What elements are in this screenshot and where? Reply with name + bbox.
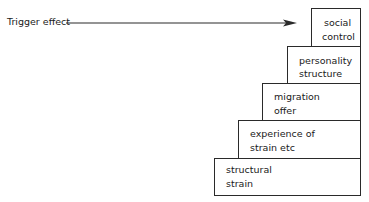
step-personality-structure: personality structure (287, 46, 361, 84)
step-label-line1: structural (226, 164, 272, 176)
step-migration-offer: migration offer (262, 83, 361, 121)
step-structural-strain: structural strain (214, 158, 361, 196)
step-label-line1: experience of (250, 128, 315, 140)
step-label-line2: structure (299, 68, 342, 80)
step-label-line2: strain etc (250, 142, 295, 154)
step-label-line2: offer (274, 105, 296, 117)
step-experience-of-strain: experience of strain etc (238, 120, 361, 159)
step-label-line1: personality (299, 55, 352, 67)
step-social-control: social control (311, 8, 361, 47)
step-label-line1: migration (274, 91, 320, 103)
step-label-line1: social (324, 17, 351, 29)
step-label-line2: control (322, 31, 355, 43)
step-label-line2: strain (226, 178, 253, 190)
